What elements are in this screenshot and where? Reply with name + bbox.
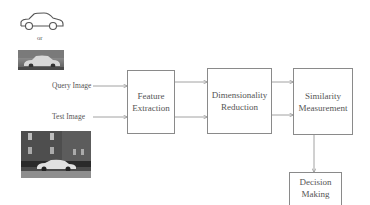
similarity-measurement-line1: Similarity [299, 90, 348, 102]
similarity-measurement-line2: Measurement [299, 102, 348, 114]
feature-extraction-line1: Feature [132, 90, 170, 102]
or-label: or [37, 34, 42, 41]
test-image-label: Test Image [52, 112, 85, 121]
dimensionality-reduction-line2: Reduction [212, 101, 268, 113]
car-sketch-icon [19, 11, 65, 33]
feature-extraction-box: Feature Extraction [127, 70, 175, 134]
feature-extraction-line2: Extraction [132, 102, 170, 114]
query-car-photo [18, 50, 64, 70]
decision-making-line2: Making [300, 188, 332, 200]
decision-making-line1: Decision [300, 176, 332, 188]
dimensionality-reduction-box: Dimensionality Reduction [207, 68, 272, 134]
test-car-photo [21, 131, 91, 178]
similarity-measurement-box: Similarity Measurement [293, 68, 353, 135]
query-image-label: Query Image [52, 81, 91, 90]
decision-making-box: Decision Making [289, 172, 342, 205]
dimensionality-reduction-line1: Dimensionality [212, 89, 268, 101]
